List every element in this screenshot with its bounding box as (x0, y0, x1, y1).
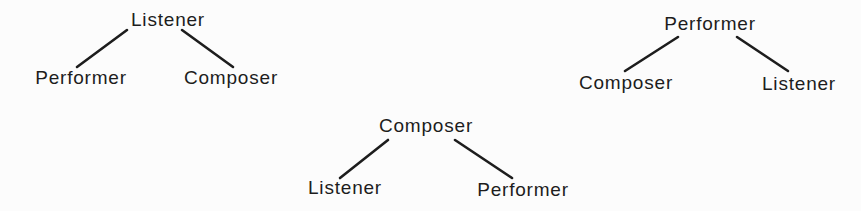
tree1-right-child-label: Composer (184, 68, 278, 87)
tree-edge-listener-performer (77, 30, 127, 67)
tree1-left-child-label: Performer (35, 68, 127, 87)
tree-edge-composer-performer (455, 140, 512, 178)
tree-edge-performer-listener (737, 37, 788, 71)
tree-edge-performer-composer (625, 37, 678, 71)
tree1-root-label: Listener (131, 10, 205, 29)
tree2-root-label: Composer (379, 116, 473, 135)
tree3-root-label: Performer (664, 14, 756, 33)
role-rotation-trees-figure: Listener Performer Composer Composer Lis… (0, 0, 861, 211)
tree2-right-child-label: Performer (477, 180, 569, 199)
tree-edge-composer-listener (340, 140, 388, 178)
tree3-left-child-label: Composer (579, 73, 673, 92)
tree-edge-listener-composer (182, 30, 233, 67)
tree3-right-child-label: Listener (762, 74, 836, 93)
tree2-left-child-label: Listener (308, 178, 382, 197)
